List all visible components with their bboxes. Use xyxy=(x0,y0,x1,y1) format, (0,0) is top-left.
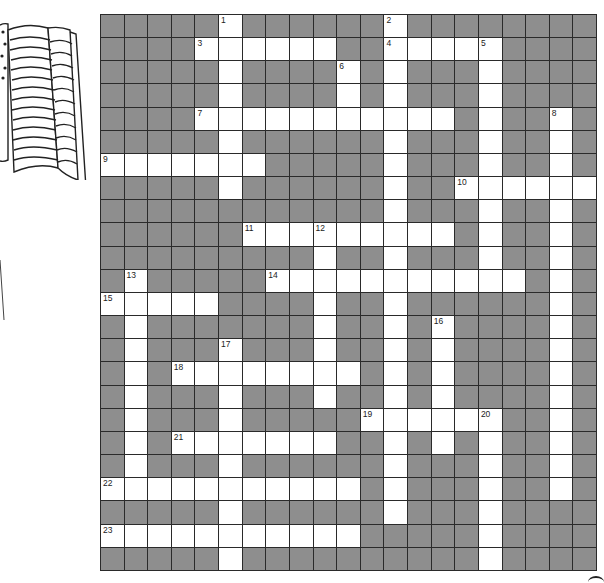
crossword-cell-open[interactable] xyxy=(219,131,242,153)
crossword-cell-open[interactable] xyxy=(219,432,242,454)
crossword-cell-open[interactable] xyxy=(219,548,242,570)
crossword-cell-open[interactable] xyxy=(408,270,431,292)
crossword-cell-open[interactable] xyxy=(337,84,360,106)
crossword-cell-open[interactable] xyxy=(550,247,573,269)
crossword-cell-open[interactable] xyxy=(526,177,549,199)
crossword-cell-open[interactable]: 18 xyxy=(172,362,195,384)
crossword-cell-open[interactable] xyxy=(432,270,455,292)
crossword-cell-open[interactable] xyxy=(219,154,242,176)
crossword-cell-open[interactable] xyxy=(550,177,573,199)
crossword-cell-open[interactable] xyxy=(550,455,573,477)
crossword-cell-open[interactable] xyxy=(314,362,337,384)
crossword-cell-open[interactable] xyxy=(290,223,313,245)
crossword-cell-open[interactable] xyxy=(125,478,148,500)
crossword-cell-open[interactable] xyxy=(361,270,384,292)
crossword-cell-open[interactable] xyxy=(195,525,218,547)
crossword-cell-open[interactable] xyxy=(219,501,242,523)
crossword-cell-open[interactable] xyxy=(314,339,337,361)
crossword-cell-open[interactable] xyxy=(266,525,289,547)
crossword-cell-open[interactable] xyxy=(172,525,195,547)
crossword-cell-open[interactable] xyxy=(479,525,502,547)
crossword-cell-open[interactable] xyxy=(266,432,289,454)
crossword-cell-open[interactable] xyxy=(337,223,360,245)
crossword-cell-open[interactable] xyxy=(266,38,289,60)
crossword-cell-open[interactable] xyxy=(384,316,407,338)
crossword-cell-open[interactable] xyxy=(290,108,313,130)
crossword-cell-open[interactable] xyxy=(384,270,407,292)
crossword-cell-open[interactable] xyxy=(384,501,407,523)
crossword-cell-open[interactable] xyxy=(479,270,502,292)
crossword-cell-open[interactable] xyxy=(314,432,337,454)
crossword-cell-open[interactable] xyxy=(432,409,455,431)
crossword-cell-open[interactable] xyxy=(125,154,148,176)
crossword-cell-open[interactable] xyxy=(550,154,573,176)
crossword-cell-open[interactable] xyxy=(125,525,148,547)
crossword-cell-open[interactable]: 12 xyxy=(314,223,337,245)
crossword-cell-open[interactable] xyxy=(337,108,360,130)
crossword-cell-open[interactable] xyxy=(361,223,384,245)
crossword-cell-open[interactable]: 15 xyxy=(101,293,124,315)
crossword-cell-open[interactable]: 21 xyxy=(172,432,195,454)
crossword-cell-open[interactable] xyxy=(479,223,502,245)
crossword-cell-open[interactable] xyxy=(455,409,478,431)
crossword-cell-open[interactable] xyxy=(479,61,502,83)
crossword-cell-open[interactable]: 16 xyxy=(432,316,455,338)
crossword-cell-open[interactable] xyxy=(219,386,242,408)
crossword-cell-open[interactable] xyxy=(314,525,337,547)
crossword-cell-open[interactable]: 4 xyxy=(384,38,407,60)
crossword-cell-open[interactable] xyxy=(290,362,313,384)
crossword-cell-open[interactable] xyxy=(125,293,148,315)
crossword-cell-open[interactable] xyxy=(290,432,313,454)
crossword-cell-open[interactable] xyxy=(266,478,289,500)
crossword-cell-open[interactable] xyxy=(384,432,407,454)
crossword-cell-open[interactable] xyxy=(243,432,266,454)
crossword-cell-open[interactable] xyxy=(479,131,502,153)
crossword-cell-open[interactable] xyxy=(550,223,573,245)
crossword-cell-open[interactable] xyxy=(125,455,148,477)
crossword-cell-open[interactable] xyxy=(550,339,573,361)
crossword-cell-open[interactable] xyxy=(314,247,337,269)
crossword-cell-open[interactable]: 23 xyxy=(101,525,124,547)
crossword-cell-open[interactable] xyxy=(195,432,218,454)
crossword-cell-open[interactable] xyxy=(290,270,313,292)
crossword-cell-open[interactable] xyxy=(243,38,266,60)
crossword-cell-open[interactable]: 9 xyxy=(101,154,124,176)
crossword-cell-open[interactable] xyxy=(148,293,171,315)
crossword-cell-open[interactable] xyxy=(314,270,337,292)
crossword-cell-open[interactable] xyxy=(384,108,407,130)
crossword-cell-open[interactable] xyxy=(172,293,195,315)
crossword-cell-open[interactable] xyxy=(384,154,407,176)
crossword-cell-open[interactable] xyxy=(479,478,502,500)
crossword-cell-open[interactable] xyxy=(266,362,289,384)
crossword-cell-open[interactable]: 7 xyxy=(195,108,218,130)
crossword-cell-open[interactable] xyxy=(219,108,242,130)
crossword-cell-open[interactable] xyxy=(550,386,573,408)
crossword-cell-open[interactable] xyxy=(384,200,407,222)
crossword-cell-open[interactable] xyxy=(243,108,266,130)
crossword-cell-open[interactable] xyxy=(384,177,407,199)
crossword-cell-open[interactable] xyxy=(455,270,478,292)
crossword-cell-open[interactable] xyxy=(479,177,502,199)
crossword-cell-open[interactable]: 14 xyxy=(266,270,289,292)
crossword-cell-open[interactable] xyxy=(384,409,407,431)
crossword-cell-open[interactable] xyxy=(290,478,313,500)
crossword-cell-open[interactable] xyxy=(479,108,502,130)
crossword-cell-open[interactable]: 13 xyxy=(125,270,148,292)
crossword-cell-open[interactable] xyxy=(384,362,407,384)
crossword-cell-open[interactable] xyxy=(243,525,266,547)
crossword-cell-open[interactable] xyxy=(125,316,148,338)
crossword-cell-open[interactable] xyxy=(384,339,407,361)
crossword-cell-open[interactable] xyxy=(361,108,384,130)
crossword-cell-open[interactable] xyxy=(408,223,431,245)
crossword-cell-open[interactable] xyxy=(408,108,431,130)
crossword-cell-open[interactable] xyxy=(219,362,242,384)
crossword-cell-open[interactable]: 5 xyxy=(479,38,502,60)
crossword-cell-open[interactable] xyxy=(243,154,266,176)
crossword-cell-open[interactable] xyxy=(479,432,502,454)
crossword-cell-open[interactable] xyxy=(219,38,242,60)
crossword-cell-open[interactable] xyxy=(479,154,502,176)
crossword-cell-open[interactable] xyxy=(479,501,502,523)
crossword-cell-open[interactable] xyxy=(290,525,313,547)
crossword-cell-open[interactable] xyxy=(148,478,171,500)
crossword-cell-open[interactable] xyxy=(219,409,242,431)
